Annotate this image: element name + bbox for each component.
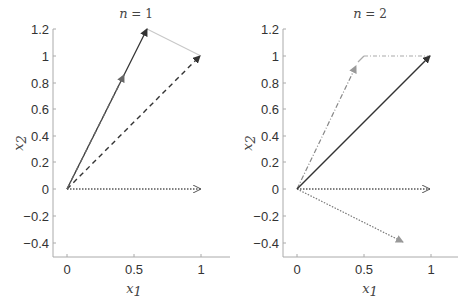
solid-arrow — [67, 29, 147, 189]
y-tick-label: 0 — [42, 182, 49, 197]
x-tick-label: 1 — [427, 262, 434, 277]
y-tick-label: −0.2 — [253, 209, 279, 224]
dashed-arrow — [67, 56, 200, 189]
x-axis-label: x1 — [362, 281, 378, 299]
x-tick-label: 1 — [197, 262, 204, 277]
y-tick-label: 0.4 — [261, 129, 279, 144]
y-tick-label: 0.6 — [31, 102, 49, 117]
y-tick-label: 0.2 — [31, 155, 49, 170]
y-axis-label: x2 — [240, 135, 258, 151]
y-tick-label: 1 — [42, 49, 49, 64]
gray-connector-line — [147, 29, 201, 56]
y-tick-label: 0.6 — [261, 102, 279, 117]
x-tick-label: 0.5 — [355, 262, 373, 277]
y-tick-label: −0.4 — [23, 236, 49, 251]
y-tick-label: 1 — [272, 49, 279, 64]
y-tick-label: 0.8 — [31, 76, 49, 91]
y-ticks: 1.2 1 0.8 0.6 0.4 0.2 0 −0.2 −0.4 — [253, 22, 286, 251]
x-tick-label: 0.5 — [125, 262, 143, 277]
panel-right: n = 2 1.2 1 0.8 0.6 0.4 0.2 0 −0.2 −0.4 — [240, 6, 458, 299]
panel-title: n = 1 — [119, 6, 153, 21]
dashdot-arrow — [297, 66, 356, 189]
y-tick-label: 1.2 — [31, 22, 49, 37]
y-tick-label: 0.8 — [261, 76, 279, 91]
figure: n = 1 1.2 1 0.8 0.6 0.4 0.2 0 −0.2 −0.4 — [0, 0, 474, 307]
y-tick-label: 0 — [272, 182, 279, 197]
y-tick-label: 1.2 — [261, 22, 279, 37]
solid-arrow — [297, 56, 430, 189]
y-tick-label: 0.4 — [31, 129, 49, 144]
x-axis-label: x1 — [126, 281, 142, 299]
x-tick-label: 0 — [63, 262, 70, 277]
panel-left: n = 1 1.2 1 0.8 0.6 0.4 0.2 0 −0.2 −0.4 — [11, 6, 230, 299]
panel-title: n = 2 — [353, 6, 387, 21]
y-tick-label: 0.2 — [261, 155, 279, 170]
connector-hook — [358, 56, 364, 62]
y-axis-label: x2 — [11, 135, 29, 151]
dotted-arrow-down — [297, 189, 403, 242]
y-tick-label: −0.2 — [23, 209, 49, 224]
y-tick-label: −0.4 — [253, 236, 279, 251]
x-tick-label: 0 — [293, 262, 300, 277]
